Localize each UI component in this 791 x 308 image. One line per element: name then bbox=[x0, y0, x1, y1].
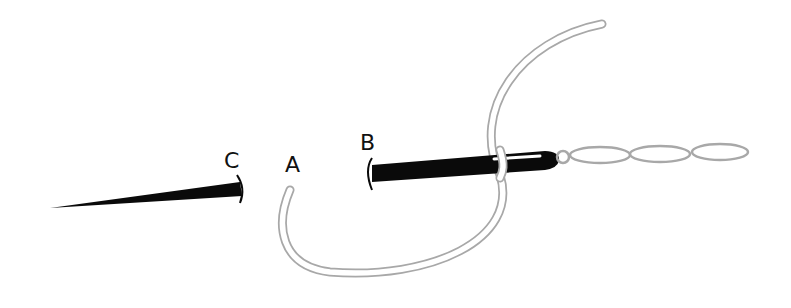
chain-link-small bbox=[557, 151, 569, 163]
stitch-diagram: C A B bbox=[0, 0, 791, 308]
chain-stitches bbox=[557, 144, 748, 163]
chain-link-3 bbox=[692, 144, 748, 160]
needle-tip bbox=[50, 175, 242, 208]
label-c: C bbox=[224, 148, 239, 173]
thread-front-section bbox=[500, 150, 503, 178]
thread-loop bbox=[283, 24, 602, 273]
chain-link-1 bbox=[570, 147, 630, 163]
label-b: B bbox=[360, 130, 375, 155]
chain-link-2 bbox=[630, 146, 690, 162]
needle-body bbox=[368, 151, 559, 190]
label-a: A bbox=[285, 152, 300, 177]
